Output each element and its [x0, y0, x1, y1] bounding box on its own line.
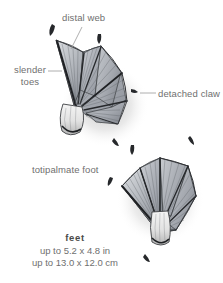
detached-claw-mark-lower-left: [108, 177, 113, 186]
upper-foot-specimen: [49, 24, 149, 147]
label-slender-toes-line1: slender: [14, 64, 46, 75]
caption-size-metric: up to 13.0 x 12.0 cm: [0, 257, 150, 269]
label-slender-toes: slender toes: [6, 64, 54, 87]
label-detached-claw: detached claw: [158, 88, 220, 100]
detached-claw-mark-upper-right: [97, 34, 101, 44]
feet-size-caption: feet up to 5.2 x 4.8 in up to 13.0 x 12.…: [0, 232, 150, 270]
detached-claw-mark-lower-top-left: [130, 145, 134, 155]
detached-claw-mark-upper-left: [49, 24, 55, 36]
detached-claw-mark-lower-top-right: [188, 136, 194, 145]
label-slender-toes-line2: toes: [21, 76, 39, 87]
leader-line-distal-web: [71, 27, 82, 49]
label-distal-web: distal web: [62, 12, 105, 24]
caption-title: feet: [0, 232, 150, 244]
label-totipalmate-foot: totipalmate foot: [32, 164, 99, 176]
caption-size-imperial: up to 5.2 x 4.8 in: [0, 245, 150, 257]
